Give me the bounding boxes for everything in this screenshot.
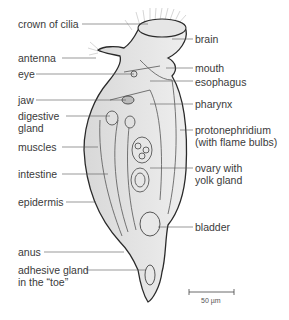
scale-bar-label: 50 µm bbox=[201, 297, 221, 304]
label-jaw: jaw bbox=[18, 94, 34, 106]
label-muscles: muscles bbox=[18, 141, 57, 153]
label-ovary: ovary with yolk gland bbox=[195, 162, 242, 186]
label-pharynx: pharynx bbox=[195, 98, 232, 110]
label-esophagus: esophagus bbox=[195, 76, 246, 88]
rotifer-diagram: crown of cilia antenna eye jaw digestive… bbox=[0, 0, 289, 320]
label-mouth: mouth bbox=[195, 62, 224, 74]
label-anus: anus bbox=[18, 246, 41, 258]
adhesive-gland-organ bbox=[145, 265, 155, 285]
digestive-gland-organ bbox=[106, 111, 118, 125]
label-antenna: antenna bbox=[18, 52, 56, 64]
label-intestine: intestine bbox=[18, 168, 57, 180]
label-crown-of-cilia: crown of cilia bbox=[18, 18, 79, 30]
scale-bar bbox=[189, 289, 234, 295]
label-protonephridium: protonephridium (with flame bulbs) bbox=[195, 124, 277, 148]
corona bbox=[138, 19, 186, 37]
body-outline bbox=[84, 22, 186, 302]
bladder-organ bbox=[140, 212, 160, 236]
label-epidermis: epidermis bbox=[18, 196, 64, 208]
label-eye: eye bbox=[18, 68, 35, 80]
label-brain: brain bbox=[195, 33, 218, 45]
label-digestive-gland: digestive gland bbox=[18, 110, 59, 134]
label-bladder: bladder bbox=[195, 221, 230, 233]
label-adhesive-gland: adhesive gland in the “toe” bbox=[18, 264, 89, 288]
